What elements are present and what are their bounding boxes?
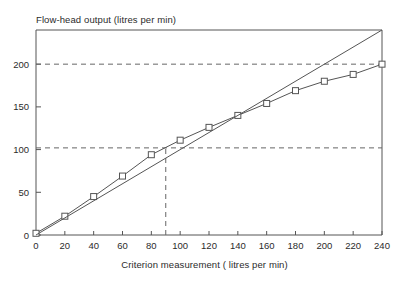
series-line-line-of-identity [36,30,382,235]
chart-figure: Flow-head output (litres per min) 020406… [0,0,409,284]
y-axis-ticks: 050100150200 [13,59,41,241]
data-point-marker [206,124,212,130]
y-tick-label: 100 [13,144,29,155]
x-tick-label: 240 [374,240,390,251]
x-tick-label: 220 [345,240,361,251]
data-point-marker [350,71,356,77]
data-point-marker [379,61,385,67]
x-tick-label: 80 [146,240,157,251]
data-point-marker [177,137,183,143]
x-tick-label: 20 [60,240,71,251]
x-tick-label: 40 [88,240,99,251]
data-point-marker [321,78,327,84]
y-tick-label: 150 [13,101,29,112]
x-axis-ticks: 020406080100120140160180200220240 [33,231,390,251]
x-tick-label: 160 [259,240,275,251]
x-tick-label: 180 [288,240,304,251]
data-point-marker [264,100,270,106]
data-point-marker [120,173,126,179]
x-tick-label: 60 [117,240,128,251]
y-tick-label: 0 [24,230,29,241]
x-tick-label: 120 [201,240,217,251]
reference-lines [36,64,382,235]
data-point-marker [293,88,299,94]
y-tick-label: 200 [13,59,29,70]
x-axis-label: Criterion measurement ( litres per min) [0,259,409,270]
x-tick-label: 100 [172,240,188,251]
x-tick-label: 200 [316,240,332,251]
x-tick-label: 0 [33,240,38,251]
plot-area: 020406080100120140160180200220240 050100… [0,0,409,284]
data-point-marker [91,194,97,200]
x-tick-label: 140 [230,240,246,251]
y-tick-label: 50 [18,187,29,198]
data-series [33,30,385,236]
data-point-marker [148,152,154,158]
series-line-flow-head-output [36,64,382,233]
